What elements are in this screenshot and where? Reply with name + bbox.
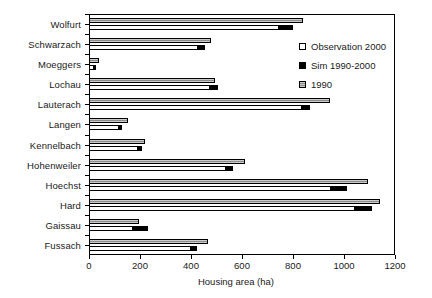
bar-group [89,195,395,215]
bar-sim-1990-2000 [225,166,233,171]
legend-label-1990: 1990 [311,79,332,90]
y-axis-label: Fussach [44,239,81,250]
y-axis-tick [85,64,89,65]
bar-group [89,134,395,154]
bar-sim-1990-2000 [301,105,310,110]
y-axis-tick [85,44,89,45]
y-axis-label: Kennelbach [30,139,81,150]
bar-1990 [89,159,245,164]
y-axis-label: Hoechst [45,179,81,190]
bar-group [89,155,395,175]
x-axis-tick-label: 0 [86,260,91,271]
y-axis-tick-minor [85,114,89,115]
y-axis-label: Hard [60,199,81,210]
bar-slot-1990 [89,239,395,244]
bar-observation-2000 [89,166,233,171]
y-axis-tick-minor [85,215,89,216]
chart-container: WolfurtSchwarzachMoeggersLochauLauterach… [0,0,432,298]
legend-item-1990: 1990 [299,79,386,90]
bar-observation-2000 [89,45,205,50]
y-axis-tick [85,145,89,146]
x-axis-tick-label: 400 [183,260,199,271]
bar-group [89,94,395,114]
y-axis-tick [85,84,89,85]
y-axis-label: Schwarzach [28,39,81,50]
bar-slot-1990 [89,118,395,123]
y-axis-tick-minor [85,34,89,35]
bar-1990 [89,98,330,103]
y-axis-tick-minor [85,235,89,236]
legend-label-sim: Sim 1990-2000 [311,60,375,71]
bar-1990 [89,78,215,83]
legend-swatch-sim-icon [299,62,306,69]
bar-observation-2000 [89,85,218,90]
y-axis-label: Hohenweiler [27,159,81,170]
bar-sim-1990-2000 [354,206,372,211]
y-axis-tick-minor [85,155,89,156]
x-axis-tick [395,255,396,259]
bar-slot-1990 [89,219,395,224]
y-axis-tick-minor [85,94,89,95]
x-axis-title: Housing area (ha) [0,276,432,287]
y-axis-tick-minor [85,54,89,55]
bar-group [89,14,395,34]
y-axis-tick [85,104,89,105]
bar-1990 [89,139,145,144]
bar-slot-observation [89,146,395,151]
legend-item-observation: Observation 2000 [299,41,386,52]
x-axis-tick [140,255,141,259]
x-axis-tick [242,255,243,259]
bar-slot-1990 [89,139,395,144]
bar-observation-2000 [89,186,347,191]
bar-observation-2000 [89,105,310,110]
y-axis-tick-minor [85,175,89,176]
bar-slot-observation [89,206,395,211]
bar-sim-1990-2000 [197,45,205,50]
y-axis-label: Langen [49,119,81,130]
bar-group [89,114,395,134]
x-axis-ticks: 020040060080010001200 [89,255,395,260]
legend-swatch-1990-icon [299,81,306,88]
bar-observation-2000 [89,25,293,30]
bar-slot-observation [89,166,395,171]
x-axis-tick-label: 1000 [333,260,354,271]
y-axis-tick [85,185,89,186]
x-axis-tick [344,255,345,259]
chart-legend: Observation 2000 Sim 1990-2000 1990 [299,41,386,90]
bar-1990 [89,179,368,184]
y-axis-labels: WolfurtSchwarzachMoeggersLochauLauterach… [0,14,86,255]
bar-slot-1990 [89,159,395,164]
x-axis-tick [89,255,90,259]
y-axis-tick-minor [85,195,89,196]
bar-slot-observation [89,186,395,191]
y-axis-tick-minor [85,14,89,15]
y-axis-label: Moeggers [38,59,81,70]
x-axis-tick [191,255,192,259]
bar-slot-1990 [89,199,395,204]
bar-observation-2000 [89,146,142,151]
bar-group [89,175,395,195]
legend-item-sim: Sim 1990-2000 [299,60,386,71]
bar-1990 [89,219,139,224]
x-axis-tick-label: 800 [285,260,301,271]
bar-1990 [89,239,208,244]
bar-sim-1990-2000 [209,85,218,90]
y-axis-tick [85,225,89,226]
bar-1990 [89,18,303,23]
y-axis-tick-minor [85,74,89,75]
bar-slot-1990 [89,18,395,23]
bar-slot-observation [89,25,395,30]
bar-1990 [89,199,380,204]
bar-sim-1990-2000 [330,186,347,191]
bar-1990 [89,58,99,63]
bar-sim-1990-2000 [137,146,142,151]
y-axis-tick [85,245,89,246]
y-axis-label: Wolfurt [50,19,81,30]
y-axis-label: Lochau [49,79,81,90]
bar-slot-observation [89,246,395,251]
x-axis-tick-label: 200 [132,260,148,271]
bar-slot-observation [89,226,395,231]
y-axis-tick [85,205,89,206]
bar-observation-2000 [89,246,197,251]
bar-sim-1990-2000 [93,65,97,70]
